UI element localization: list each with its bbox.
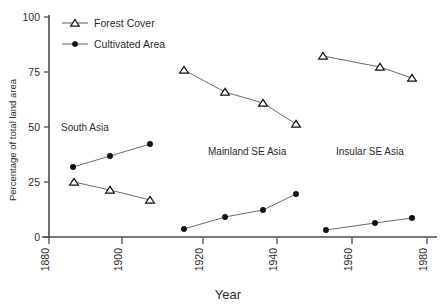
y-tick-label-25: 25 bbox=[28, 176, 40, 188]
x-axis-title: Year bbox=[215, 287, 242, 302]
y-tick-label-0: 0 bbox=[34, 231, 40, 243]
y-tick-label-75: 75 bbox=[28, 66, 40, 78]
data-point-cultivated bbox=[260, 207, 265, 212]
data-point-cultivated bbox=[70, 164, 75, 169]
data-point-forest bbox=[180, 66, 189, 73]
data-point-forest bbox=[408, 74, 417, 81]
y-axis-title: Percentage of total land area bbox=[7, 78, 18, 201]
x-tick-label-1960: 1960 bbox=[342, 248, 354, 272]
region-label-insular-se-asia: Insular SE Asia bbox=[336, 146, 404, 157]
data-point-cultivated bbox=[181, 226, 186, 231]
data-point-cultivated bbox=[372, 220, 377, 225]
x-axis: 1880 1900 1920 1940 1960 1980 Year bbox=[39, 237, 437, 302]
data-point-forest bbox=[221, 88, 230, 95]
x-tick-label-1900: 1900 bbox=[112, 248, 124, 272]
chart-legend: Forest Cover Cultivated Area bbox=[62, 17, 165, 50]
mainland-forest-line bbox=[184, 70, 296, 124]
series-group-insular-se-asia bbox=[319, 52, 417, 232]
y-tick-label-50: 50 bbox=[28, 121, 40, 133]
region-label-mainland-se-asia: Mainland SE Asia bbox=[208, 146, 287, 157]
insular-forest-line bbox=[323, 56, 412, 78]
region-label-south-asia: South Asia bbox=[61, 122, 109, 133]
data-point-forest bbox=[292, 120, 301, 127]
data-point-forest bbox=[319, 52, 328, 59]
insular-cultivated-line bbox=[326, 218, 412, 230]
forest-cultivated-line-chart: 100 75 50 25 0 Percentage of total land … bbox=[0, 0, 440, 306]
data-point-cultivated bbox=[323, 227, 328, 232]
y-axis: 100 75 50 25 0 Percentage of total land … bbox=[7, 11, 49, 243]
data-point-forest bbox=[259, 99, 268, 106]
x-tick-label-1880: 1880 bbox=[39, 248, 51, 272]
mainland-cultivated-line bbox=[184, 194, 296, 229]
data-point-cultivated bbox=[107, 153, 112, 158]
region-annotations: South Asia Mainland SE Asia Insular SE A… bbox=[61, 122, 404, 157]
x-tick-label-1920: 1920 bbox=[193, 248, 205, 272]
data-point-cultivated bbox=[409, 215, 414, 220]
legend-cultivated-dot-icon bbox=[72, 41, 77, 46]
series-group-south-asia bbox=[70, 141, 155, 203]
data-point-forest bbox=[70, 178, 79, 185]
x-tick-label-1980: 1980 bbox=[417, 248, 429, 272]
x-tick-label-1940: 1940 bbox=[267, 248, 279, 272]
data-point-cultivated bbox=[222, 214, 227, 219]
data-point-cultivated bbox=[147, 141, 152, 146]
legend-label-cultivated-area: Cultivated Area bbox=[94, 38, 165, 50]
legend-label-forest-cover: Forest Cover bbox=[94, 17, 155, 29]
data-point-cultivated bbox=[293, 191, 298, 196]
y-tick-label-100: 100 bbox=[22, 11, 40, 23]
chart-container: 100 75 50 25 0 Percentage of total land … bbox=[0, 0, 440, 306]
